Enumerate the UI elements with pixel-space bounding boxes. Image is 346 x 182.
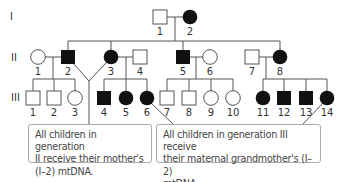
male-unaffected-II-7 xyxy=(245,50,259,64)
female-unaffected-II-1 xyxy=(31,50,46,65)
callout-line: their maternal grandmother's (I–2) xyxy=(163,153,314,177)
callout-line: All children in generation xyxy=(35,129,145,153)
number-III-5: 5 xyxy=(123,107,129,118)
callout-line: All children in generation III receive xyxy=(163,129,314,153)
female-affected-III-6 xyxy=(140,91,155,106)
number-III-14: 14 xyxy=(321,107,334,118)
number-III-9: 9 xyxy=(208,107,214,118)
number-III-1: 1 xyxy=(30,107,36,118)
number-II-1: 1 xyxy=(35,66,41,77)
number-II-6: 6 xyxy=(207,66,213,77)
number-III-13: 13 xyxy=(300,107,313,118)
male-affected-III-12 xyxy=(277,91,291,105)
number-I-2: 2 xyxy=(187,26,193,37)
callout-line: II receive their mother's xyxy=(35,153,145,165)
female-unaffected-III-9 xyxy=(204,91,219,106)
callout-line: (I–2) mtDNA. xyxy=(35,166,145,178)
male-affected-III-13 xyxy=(299,91,313,105)
callout-generation-II: All children in generation II receive th… xyxy=(28,124,152,163)
male-unaffected-II-4 xyxy=(133,50,147,64)
number-III-8: 8 xyxy=(186,107,192,118)
male-unaffected-III-2 xyxy=(47,91,61,105)
callout-line: mtDNA. xyxy=(163,178,314,182)
number-II-3: 3 xyxy=(108,66,114,77)
number-II-7: 7 xyxy=(249,66,255,77)
number-II-8: 8 xyxy=(277,66,283,77)
male-unaffected-III-7 xyxy=(160,91,174,105)
number-III-6: 6 xyxy=(144,107,150,118)
generation-label-III: III xyxy=(11,92,20,103)
male-affected-III-4 xyxy=(97,91,111,105)
generation-label-I: I xyxy=(10,11,13,22)
number-II-4: 4 xyxy=(137,66,143,77)
generation-label-II: II xyxy=(11,52,17,63)
number-III-7: 7 xyxy=(164,107,170,118)
number-I-1: 1 xyxy=(157,26,163,37)
number-II-5: 5 xyxy=(180,66,186,77)
female-affected-II-8 xyxy=(273,50,288,65)
male-affected-II-2 xyxy=(61,50,75,64)
number-III-2: 2 xyxy=(51,107,57,118)
female-unaffected-III-10 xyxy=(226,91,241,106)
number-III-10: 10 xyxy=(227,107,240,118)
number-III-4: 4 xyxy=(101,107,107,118)
callout-generation-III: All children in generation III receive t… xyxy=(156,124,321,163)
female-affected-II-3 xyxy=(104,50,119,65)
male-unaffected-III-8 xyxy=(182,91,196,105)
female-affected-III-5 xyxy=(119,91,134,106)
male-unaffected-III-1 xyxy=(26,91,40,105)
female-affected-I-2 xyxy=(183,10,198,25)
number-III-11: 11 xyxy=(257,107,270,118)
male-affected-II-5 xyxy=(176,50,190,64)
male-unaffected-I-1 xyxy=(153,10,167,24)
female-affected-III-11 xyxy=(256,91,271,106)
female-unaffected-II-6 xyxy=(203,50,218,65)
female-affected-III-14 xyxy=(320,91,335,106)
number-II-2: 2 xyxy=(65,66,71,77)
number-III-3: 3 xyxy=(72,107,78,118)
female-unaffected-III-3 xyxy=(68,91,83,106)
number-III-12: 12 xyxy=(278,107,291,118)
